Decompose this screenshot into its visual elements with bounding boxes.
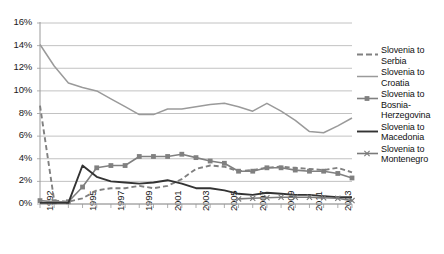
series-marker-square	[208, 159, 213, 164]
legend-key-icon	[357, 145, 378, 156]
legend-key-icon	[357, 68, 378, 79]
series-marker-square	[165, 154, 170, 159]
series-line-slovenia-to-croatia	[40, 45, 352, 133]
series-marker-square	[137, 154, 142, 159]
series-marker-square	[321, 169, 326, 174]
chart-container: 0%2%4%6%8%10%12%14%16% 19921995199719992…	[0, 0, 444, 254]
legend-marker-square	[365, 96, 370, 101]
series-marker-square	[265, 165, 270, 170]
series-marker-square	[94, 165, 99, 170]
legend-item-label: Slovenia to Croatia	[381, 67, 444, 88]
legend-key-icon	[357, 46, 378, 57]
series-marker-square	[335, 171, 340, 176]
series-marker-square	[307, 169, 312, 174]
legend-item[interactable]: Slovenia to Bosnia-Herzegovina	[357, 89, 444, 121]
legend-item[interactable]: Slovenia to Montenegro	[357, 144, 444, 165]
chart-legend: Slovenia to SerbiaSlovenia to CroatiaSlo…	[357, 45, 444, 166]
legend-item[interactable]: Slovenia to Macedonia	[357, 122, 444, 143]
legend-item-label: Slovenia to Montenegro	[381, 144, 444, 165]
series-marker-square	[236, 169, 241, 174]
series-marker-square	[123, 163, 128, 168]
series-marker-square	[222, 161, 227, 166]
series-marker-square	[293, 168, 298, 173]
legend-item-label: Slovenia to Bosnia-Herzegovina	[381, 89, 444, 121]
series-marker-square	[151, 154, 156, 159]
series-marker-square	[109, 163, 114, 168]
legend-item-label: Slovenia to Serbia	[381, 45, 444, 66]
series-marker-square	[279, 165, 284, 170]
legend-item[interactable]: Slovenia to Serbia	[357, 45, 444, 66]
legend-key-icon	[357, 123, 378, 134]
series-marker-square	[194, 155, 199, 160]
series-marker-square	[350, 176, 355, 181]
series-marker-square	[250, 169, 255, 174]
legend-key-icon	[357, 90, 378, 101]
series-marker-square	[179, 152, 184, 157]
series-marker-square	[80, 185, 85, 190]
legend-item[interactable]: Slovenia to Croatia	[357, 67, 444, 88]
legend-item-label: Slovenia to Macedonia	[381, 122, 444, 143]
